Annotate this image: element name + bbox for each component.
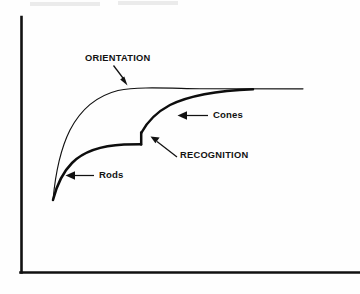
rods-branch-curve [53, 144, 141, 200]
figure-canvas [0, 0, 360, 294]
cones-arrow-icon [178, 111, 209, 119]
recognition-arrow-icon [151, 137, 178, 158]
scan-smudge-right [118, 1, 178, 5]
orientation-arrow-icon [114, 66, 128, 86]
figure-container: ORIENTATION RECOGNITION Cones Rods [0, 0, 360, 294]
recognition-label: RECOGNITION [180, 151, 248, 160]
rods-arrow-icon [66, 171, 95, 179]
orientation-label: ORIENTATION [85, 54, 150, 63]
cones-label: Cones [213, 110, 243, 120]
rods-label: Rods [99, 170, 124, 180]
orientation-curve [53, 88, 303, 200]
scan-smudge-left [30, 2, 100, 6]
